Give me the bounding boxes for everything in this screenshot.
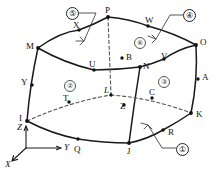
axis-label-z: Z (17, 123, 22, 132)
node-B (120, 56, 123, 59)
leader-face-4 (156, 15, 183, 39)
face-normal-arrows (76, 35, 156, 129)
element-diagram: P X W M O B U N V Y A L C T Z I K Q J R … (0, 0, 221, 178)
face-number-6: ⑥ (134, 37, 146, 49)
node-K (189, 111, 193, 115)
node-I (25, 119, 29, 123)
node-O (194, 43, 198, 47)
node-N (138, 65, 142, 69)
node-R (161, 128, 164, 131)
node-label-Z: Z (120, 102, 126, 111)
edge-I-T-L (27, 95, 111, 121)
node-Q (76, 137, 79, 140)
edge-O-A-K (191, 45, 196, 113)
edge-N-Z-J (129, 67, 140, 143)
node-label-W: W (145, 16, 154, 25)
visible-edges (27, 17, 196, 143)
node-label-V: V (161, 52, 168, 61)
node-label-R: R (168, 128, 174, 137)
node-label-X: X (73, 21, 80, 30)
face-number-3: ③ (158, 76, 170, 88)
face-number-2: ② (64, 80, 76, 92)
callout-number-4: ④ (183, 9, 196, 22)
axis-label-y: Y (64, 143, 69, 152)
edge-J-R-K (129, 113, 191, 143)
node-label-P: P (105, 6, 110, 15)
arrow-tail-face-1 (141, 123, 148, 125)
node-label-N: N (143, 62, 150, 71)
node-label-B: B (126, 53, 132, 62)
node-label-J: J (127, 147, 131, 156)
node-Y (30, 83, 33, 86)
node-J (127, 141, 131, 145)
node-label-C: C (149, 88, 155, 97)
node-P (106, 15, 110, 19)
axis-x-line (13, 148, 26, 160)
node-label-L: L (104, 86, 109, 95)
edge-P-B-L (108, 17, 111, 95)
node-L (109, 93, 112, 96)
node-label-T: T (63, 94, 69, 103)
callout-number-1: ① (176, 143, 189, 156)
arrow-head-face-1 (144, 125, 152, 129)
callout-number-5: ⑤ (66, 7, 79, 20)
node-label-M: M (26, 42, 34, 51)
node-label-Q: Q (74, 145, 81, 154)
node-label-O: O (200, 38, 207, 47)
node-label-A: A (202, 73, 209, 82)
axis-label-x: X (5, 160, 11, 169)
node-label-K: K (196, 110, 203, 119)
node-label-Y: Y (21, 78, 28, 87)
node-A (196, 77, 199, 80)
node-M (36, 46, 40, 50)
node-label-U: U (89, 60, 96, 69)
